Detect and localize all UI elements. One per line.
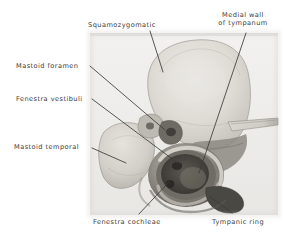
- label-squamozygomatic: Squamozygomatic: [88, 21, 156, 29]
- anatomical-figure: Squamozygomatic Medial wall of tympanum …: [0, 0, 285, 239]
- label-fenestra-vestibuli: Fenestra vestibuli: [16, 95, 83, 103]
- fenestra-vestibuli-marker: [172, 162, 182, 170]
- label-mastoid-foramen: Mastoid foramen: [16, 62, 78, 70]
- label-medial-wall-of-tympanum: Medial wall of tympanum: [211, 11, 275, 28]
- label-medial-wall-line2: of tympanum: [218, 19, 267, 27]
- label-fenestra-cochleae: Fenestra cochleae: [93, 218, 161, 226]
- label-mastoid-temporal: Mastoid temporal: [14, 143, 79, 151]
- label-medial-wall-line1: Medial wall: [222, 11, 264, 19]
- label-tympanic-ring: Tympanic ring: [212, 218, 264, 226]
- figure-illustration: [0, 0, 285, 239]
